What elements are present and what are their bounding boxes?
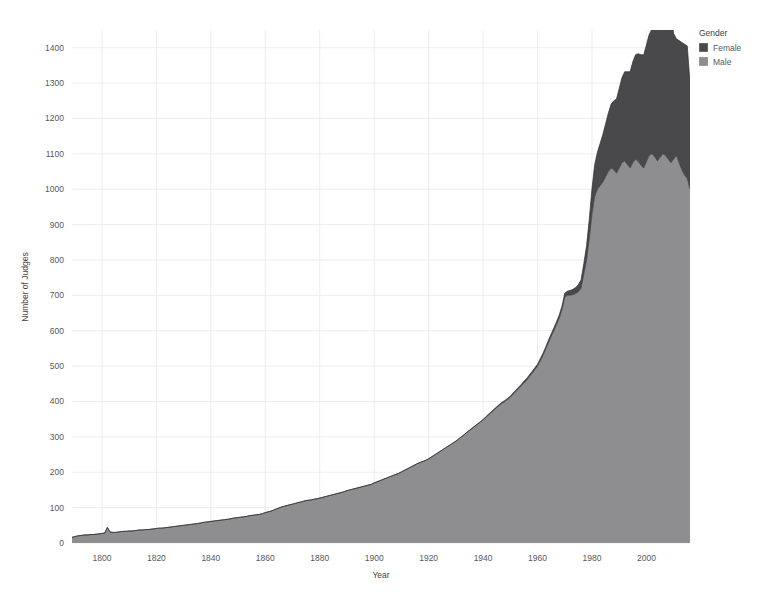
x-tick-label: 1920 [419, 553, 438, 563]
y-tick-label: 200 [50, 467, 64, 477]
y-tick-label: 600 [50, 326, 64, 336]
chart-figure: 0100200300400500600700800900100011001200… [0, 0, 778, 599]
legend-title: Gender [699, 28, 728, 38]
legend-label-male: Male [713, 57, 732, 67]
y-tick-label: 1400 [45, 43, 64, 53]
y-tick-label: 0 [59, 538, 64, 548]
x-tick-label: 1980 [583, 553, 602, 563]
legend-swatch-male [699, 57, 708, 66]
x-tick-label: 1960 [528, 553, 547, 563]
y-tick-label: 800 [50, 255, 64, 265]
y-tick-label: 700 [50, 290, 64, 300]
legend-swatch-female [699, 43, 708, 52]
y-tick-label: 1000 [45, 184, 64, 194]
legend-label-female: Female [713, 43, 742, 53]
y-tick-label: 100 [50, 503, 64, 513]
y-axis-title: Number of Judges [20, 252, 30, 321]
x-tick-label: 1880 [310, 553, 329, 563]
x-tick-label: 1860 [256, 553, 275, 563]
x-tick-label: 1940 [474, 553, 493, 563]
x-tick-label: 1840 [201, 553, 220, 563]
y-tick-label: 500 [50, 361, 64, 371]
x-tick-label: 1820 [147, 553, 166, 563]
x-tick-label: 2000 [637, 553, 656, 563]
y-tick-label: 300 [50, 432, 64, 442]
legend-item-male[interactable]: Male [699, 57, 732, 67]
legend-item-female[interactable]: Female [699, 43, 742, 53]
stacked-area-chart: 0100200300400500600700800900100011001200… [0, 0, 778, 599]
x-tick-label: 1800 [92, 553, 111, 563]
x-tick-label: 1900 [365, 553, 384, 563]
y-tick-label: 1300 [45, 78, 64, 88]
x-axis-title: Year [372, 570, 389, 580]
y-tick-label: 400 [50, 396, 64, 406]
y-tick-label: 900 [50, 220, 64, 230]
y-tick-label: 1200 [45, 113, 64, 123]
y-tick-label: 1100 [46, 149, 65, 159]
